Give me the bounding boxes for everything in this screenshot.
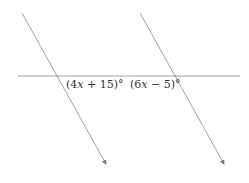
angle-label-right: (6x − 5)° — [130, 78, 181, 91]
diagram-canvas: (4x + 15)° (6x − 5)° — [0, 0, 249, 183]
angle-label-left: (4x + 15)° — [66, 78, 124, 91]
